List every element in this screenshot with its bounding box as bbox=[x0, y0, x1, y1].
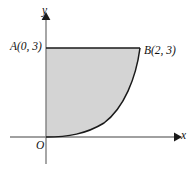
figure-canvas bbox=[0, 0, 194, 170]
x-axis-label: x bbox=[181, 130, 186, 142]
shaded-region bbox=[46, 48, 140, 137]
y-axis-label: y bbox=[42, 5, 47, 17]
math-region-figure: A(0, 3) B(2, 3) O x y bbox=[0, 0, 194, 170]
origin-label: O bbox=[36, 140, 44, 152]
point-label-a: A(0, 3) bbox=[10, 41, 42, 53]
point-label-b: B(2, 3) bbox=[144, 45, 176, 57]
